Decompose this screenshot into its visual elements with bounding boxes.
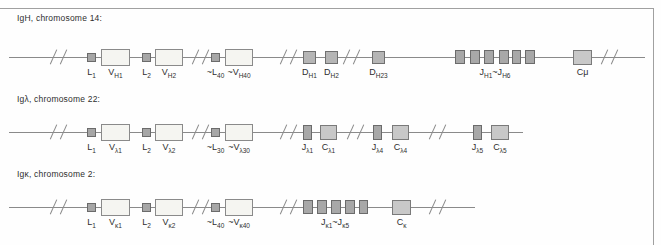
label-subscript: λ30: [239, 147, 249, 154]
gene-segment-label-iglambda-Jl1: Jλ1: [302, 142, 313, 152]
gene-segment-label-igkappa-Ck: Cκ: [397, 217, 407, 227]
label-text: C: [322, 142, 329, 152]
gene-segment-box-iglambda-L1: [87, 128, 96, 137]
label-text: D: [324, 67, 331, 77]
label-subscript: 2: [147, 222, 151, 229]
label-text: ~J: [492, 67, 502, 77]
gene-segment-box-igh-JH-3: [484, 50, 494, 64]
gene-segment-label-igh-VH2: VH2: [162, 67, 176, 77]
gene-segment-group-label-igh-JH-range: JH1~JH6: [480, 67, 511, 77]
label-subscript: 2: [147, 72, 151, 79]
label-subscript: κ40: [239, 222, 249, 229]
gene-segment-label-iglambda-Cl5: Cλ5: [493, 142, 506, 152]
label-subscript: 1: [92, 147, 96, 154]
gene-segment-label-iglambda-Cl1: Cλ1: [322, 142, 335, 152]
immunoglobulin-loci-figure: IgH, chromosome 14:L1VH1L2VH2~L40~VH40DH…: [0, 0, 661, 245]
gene-segment-box-igh-DH1: [303, 51, 316, 64]
gene-segment-box-igkappa-Vk40: [225, 199, 253, 216]
gene-segment-label-igh-VH1: VH1: [108, 67, 122, 77]
gene-segment-box-igh-DH23: [372, 51, 385, 64]
gene-segment-group-label-igkappa-Jk-range: Jκ1~Jκ5: [321, 217, 349, 227]
gene-segment-box-igkappa-L2: [142, 203, 151, 212]
label-subscript: λ5: [500, 147, 507, 154]
gene-segment-label-iglambda-L1: L1: [87, 142, 96, 152]
figure-frame-top-border: [0, 8, 653, 9]
label-subscript: 30: [217, 147, 224, 154]
gene-segment-box-igh-VH2: [155, 49, 183, 66]
gene-segment-label-iglambda-L30: ~L30: [207, 142, 225, 152]
label-text: J: [480, 67, 485, 77]
gene-segment-label-igh-L2: L2: [142, 67, 151, 77]
gene-segment-box-igkappa-Jk-1: [303, 200, 313, 214]
gene-segment-box-igkappa-Jk-4: [345, 200, 355, 214]
gene-segment-label-igh-DH1: DH1: [302, 67, 317, 77]
gene-segment-box-iglambda-L30: [211, 128, 220, 137]
gene-segment-box-igh-JH-5: [512, 50, 521, 64]
label-subscript: λ4: [376, 147, 383, 154]
label-text: ~L: [207, 67, 217, 77]
label-subscript: 2: [147, 147, 151, 154]
gene-segment-label-igh-Cmu: Cμ: [577, 67, 589, 77]
figure-frame-right-border: [653, 8, 654, 245]
label-text: ~V: [228, 217, 239, 227]
label-subscript: κ1: [115, 222, 122, 229]
label-subscript: H40: [239, 72, 251, 79]
gene-segment-box-iglambda-Jl1: [303, 125, 312, 140]
label-subscript: H2: [331, 72, 339, 79]
label-subscript: λ1: [328, 147, 335, 154]
gene-segment-label-iglambda-Cl4: Cλ4: [394, 142, 407, 152]
gene-segment-label-igkappa-L2: L2: [142, 217, 151, 227]
locus-title-igkappa: Igκ, chromosome 2:: [17, 169, 95, 179]
gene-segment-label-iglambda-L2: L2: [142, 142, 151, 152]
label-subscript: λ4: [400, 147, 407, 154]
gene-segment-box-igkappa-L40: [211, 203, 220, 212]
label-text: C: [493, 142, 500, 152]
label-subscript: λ2: [169, 147, 176, 154]
gene-segment-label-iglambda-Vl30: ~Vλ30: [228, 142, 250, 152]
gene-segment-label-igkappa-Vk40: ~Vκ40: [228, 217, 250, 227]
label-text: J: [472, 142, 477, 152]
gene-segment-box-igh-JH-2: [470, 50, 480, 64]
label-subscript: 1: [92, 72, 96, 79]
label-text: J: [321, 217, 326, 227]
gene-segment-label-igkappa-Vk1: Vκ1: [109, 217, 122, 227]
gene-segment-box-igkappa-Ck: [392, 200, 411, 215]
label-text: J: [302, 142, 307, 152]
label-subscript: H6: [502, 72, 510, 79]
gene-segment-box-iglambda-Jl4: [373, 125, 382, 140]
gene-segment-box-iglambda-L2: [142, 128, 151, 137]
gene-segment-label-iglambda-Jl5: Jλ5: [472, 142, 483, 152]
gene-segment-box-iglambda-Cl1: [320, 125, 337, 140]
label-subscript: λ5: [476, 147, 483, 154]
label-text: C: [397, 217, 404, 227]
label-subscript: λ1: [115, 147, 122, 154]
gene-segment-box-igh-L1: [87, 53, 96, 62]
label-subscript: 40: [217, 72, 224, 79]
gene-segment-box-igh-JH-6: [525, 50, 535, 64]
gene-segment-box-igh-Cmu: [573, 50, 592, 65]
gene-segment-label-igh-DH23: DH23: [369, 67, 387, 77]
locus-title-iglambda: Igλ, chromosome 22:: [17, 94, 100, 104]
label-text: C: [394, 142, 401, 152]
label-text: Cμ: [577, 67, 589, 77]
label-subscript: λ1: [306, 147, 313, 154]
label-text: D: [302, 67, 309, 77]
gene-segment-label-igh-L1: L1: [87, 67, 96, 77]
gene-segment-label-iglambda-Jl4: Jλ4: [372, 142, 383, 152]
gene-segment-box-iglambda-Jl5: [473, 125, 482, 140]
gene-segment-box-igh-L40: [211, 53, 220, 62]
label-subscript: κ5: [342, 222, 349, 229]
gene-segment-box-igh-L2: [142, 53, 151, 62]
gene-segment-label-igkappa-Vk2: Vκ2: [163, 217, 176, 227]
gene-segment-box-igh-DH2: [325, 51, 338, 64]
label-subscript: H1: [309, 72, 317, 79]
label-subscript: κ2: [169, 222, 176, 229]
label-text: ~V: [227, 67, 238, 77]
gene-segment-box-iglambda-Vl30: [225, 124, 253, 141]
label-text: J: [372, 142, 377, 152]
gene-segment-box-igkappa-Jk-2: [317, 200, 327, 214]
label-text: D: [369, 67, 376, 77]
gene-segment-box-igkappa-Vk1: [101, 199, 130, 216]
gene-segment-box-iglambda-Vl1: [101, 124, 130, 141]
label-text: ~V: [228, 142, 239, 152]
